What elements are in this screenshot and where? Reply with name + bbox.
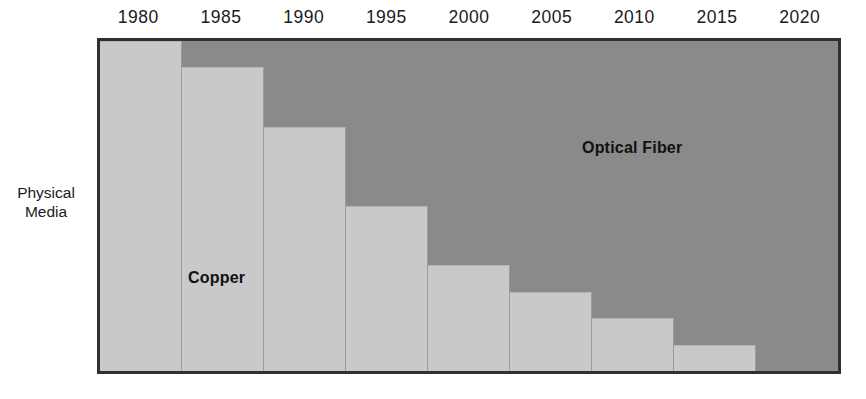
- bar-column-1985: [182, 41, 264, 371]
- copper-segment-1985: [182, 67, 264, 371]
- x-axis-tick-2000: 2000: [428, 2, 511, 32]
- bar-column-2000: [428, 41, 510, 371]
- y-axis-caption-line-2: Media: [0, 202, 92, 221]
- series-label-copper: Copper: [188, 269, 245, 287]
- bar-column-1980: [100, 41, 182, 371]
- bar-column-2010: [592, 41, 674, 371]
- bar-column-2020: [756, 41, 838, 371]
- copper-segment-2000: [428, 265, 510, 371]
- copper-segment-2010: [592, 318, 674, 371]
- copper-segment-2015: [674, 345, 756, 371]
- bar-column-1990: [264, 41, 346, 371]
- y-axis-caption: Physical Media: [0, 183, 92, 221]
- x-axis-tick-1995: 1995: [345, 2, 428, 32]
- x-axis-tick-1980: 1980: [97, 2, 180, 32]
- x-axis-tick-2020: 2020: [758, 2, 841, 32]
- chart-figure: 1980 1985 1990 1995 2000 2005 2010 2015 …: [0, 0, 866, 399]
- x-axis-tick-labels: 1980 1985 1990 1995 2000 2005 2010 2015 …: [97, 2, 841, 32]
- bar-column-1995: [346, 41, 428, 371]
- x-axis-tick-2015: 2015: [676, 2, 759, 32]
- plot-area: Copper Optical Fiber: [97, 38, 841, 374]
- y-axis-caption-line-1: Physical: [0, 183, 92, 202]
- copper-segment-1980: [100, 41, 182, 371]
- bar-column-2005: [510, 41, 592, 371]
- stacked-bar-columns: [100, 41, 838, 371]
- x-axis-tick-2005: 2005: [510, 2, 593, 32]
- bar-column-2015: [674, 41, 756, 371]
- copper-segment-2005: [510, 292, 592, 371]
- series-label-optical-fiber: Optical Fiber: [582, 139, 682, 157]
- x-axis-tick-2010: 2010: [593, 2, 676, 32]
- x-axis-tick-1985: 1985: [180, 2, 263, 32]
- copper-segment-1995: [346, 206, 428, 371]
- x-axis-tick-1990: 1990: [262, 2, 345, 32]
- copper-segment-1990: [264, 127, 346, 371]
